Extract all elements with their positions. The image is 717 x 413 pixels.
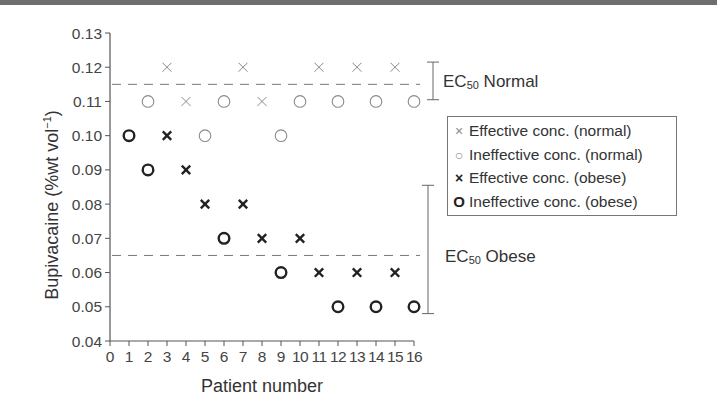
legend-item-ineffective-normal: ○Ineffective conc. (normal) <box>452 143 676 167</box>
y-tick-label: 0.05 <box>72 298 102 315</box>
y-axis-label-unit: (%wt vol−1) <box>42 110 62 197</box>
x-marker-icon: × <box>452 120 466 143</box>
y-tick-label: 0.13 <box>72 25 102 42</box>
circle-marker-icon <box>408 96 420 108</box>
x-tick-label: 3 <box>163 348 172 365</box>
y-tick-label: 0.11 <box>73 93 102 110</box>
data-points <box>124 63 420 312</box>
x-tick-label: 7 <box>239 348 248 365</box>
y-tick-label: 0.10 <box>72 127 103 144</box>
x-tick-label: 6 <box>220 348 229 365</box>
x-tick-label: 15 <box>387 348 403 365</box>
x-tick-label: 12 <box>330 348 346 365</box>
circle-marker-icon <box>275 130 287 142</box>
y-tick-label: 0.12 <box>72 59 102 76</box>
legend-item-ineffective-obese: OIneffective conc. (obese) <box>452 190 676 214</box>
x-tick-label: 9 <box>277 348 286 365</box>
circle-marker-icon <box>218 96 230 108</box>
y-tick-label: 0.04 <box>72 333 103 350</box>
y-tick-label: 0.07 <box>72 230 102 247</box>
circle-marker-icon <box>332 96 344 108</box>
ec50-normal-label: EC50 Normal <box>443 72 538 92</box>
x-tick-label: 8 <box>258 348 267 365</box>
x-tick-label: 4 <box>182 348 191 365</box>
x-axis-label: Patient number <box>201 376 323 397</box>
x-tick-label: 2 <box>144 348 153 365</box>
circle-marker-icon <box>370 96 382 108</box>
circle-marker-icon <box>294 96 306 108</box>
legend-item-effective-normal: ×Effective conc. (normal) <box>452 119 676 143</box>
y-tick-label: 0.09 <box>72 161 102 178</box>
x-tick-label: 0 <box>106 348 115 365</box>
x-tick-label: 1 <box>125 348 134 365</box>
x-tick-label: 14 <box>368 348 385 365</box>
legend-item-effective-obese: ×Effective conc. (obese) <box>452 166 676 190</box>
x-tick-label: 5 <box>201 348 210 365</box>
circle-marker-icon <box>333 301 344 312</box>
circle-marker-icon <box>409 301 420 312</box>
bold-x-marker-icon: × <box>452 167 466 190</box>
circle-marker-icon <box>124 130 135 141</box>
circle-marker-icon <box>142 96 154 108</box>
y-axis-label: Bupivacaine (%wt vol−1) <box>41 110 63 300</box>
circle-marker-icon <box>199 130 211 142</box>
y-tick-label: 0.08 <box>72 196 102 213</box>
axes: 0.040.050.060.070.080.090.100.110.120.13… <box>72 25 422 366</box>
legend: ×Effective conc. (normal) ○Ineffective c… <box>447 116 677 216</box>
x-tick-label: 10 <box>292 348 309 365</box>
y-tick-label: 0.06 <box>72 264 102 281</box>
y-axis-label-main: Bupivacaine <box>42 202 62 300</box>
circle-marker-icon: ○ <box>452 144 466 167</box>
circle-marker-icon <box>143 165 154 176</box>
bold-circle-marker-icon: O <box>452 190 466 213</box>
x-tick-label: 11 <box>311 348 326 365</box>
circle-marker-icon <box>219 233 230 244</box>
x-tick-label: 13 <box>349 348 365 365</box>
ec50-obese-label: EC50 Obese <box>445 247 536 267</box>
circle-marker-icon <box>276 267 287 278</box>
circle-marker-icon <box>371 301 382 312</box>
x-tick-label: 16 <box>406 348 422 365</box>
